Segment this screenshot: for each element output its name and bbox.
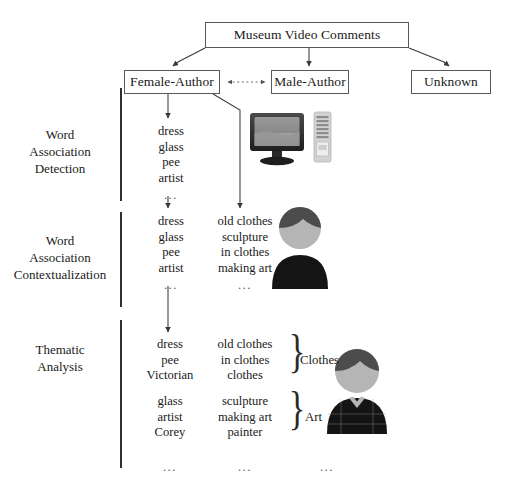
stage-2-line-1: Word — [2, 232, 118, 249]
word-item: dress — [138, 124, 204, 140]
bottom-ellipsis-2: ... — [200, 460, 290, 476]
stage2-word-column-2: old clothes sculpture in clothes making … — [196, 214, 294, 276]
word-item: artist — [134, 410, 206, 426]
stage2-ellipsis-1: ... — [138, 278, 204, 294]
word-item: dress — [138, 214, 204, 230]
stage-label-word-association-detection: Word Association Detection — [2, 126, 118, 177]
bottom-ellipsis-1: ... — [134, 460, 206, 476]
word-item: pee — [138, 155, 204, 171]
edge-root-to-female — [173, 48, 205, 66]
node-museum-video-comments[interactable]: Museum Video Comments — [205, 22, 409, 48]
stage1-word-column: dress glass pee artist — [138, 124, 204, 186]
edge-root-to-unknown — [409, 48, 449, 66]
node-female-author[interactable]: Female-Author — [124, 70, 220, 94]
word-item: making art — [196, 261, 294, 277]
stage1-ellipsis: ... — [138, 188, 204, 204]
word-item: sculpture — [196, 230, 294, 246]
word-item: in clothes — [200, 353, 290, 369]
bottom-ellipsis-3: ... — [292, 460, 362, 476]
edge-female-to-stage2-col2 — [213, 94, 240, 208]
word-item: glass — [134, 394, 206, 410]
word-item: in clothes — [196, 245, 294, 261]
stage-1-line-3: Detection — [2, 160, 118, 177]
stage2-word-column-1: dress glass pee artist — [138, 214, 204, 276]
monitor-icon — [250, 113, 304, 165]
diagram-canvas: Museum Video Comments Female-Author Male… — [0, 0, 516, 494]
word-item: Victorian — [134, 368, 206, 384]
server-tower-icon — [314, 112, 331, 162]
stage-2-line-2: Association — [2, 249, 118, 266]
word-item: pee — [138, 245, 204, 261]
word-item: glass — [138, 230, 204, 246]
word-item: making art — [200, 410, 290, 426]
word-item: dress — [134, 337, 206, 353]
word-item: artist — [138, 261, 204, 277]
stage-1-line-1: Word — [2, 126, 118, 143]
theme-label-clothes: Clothes — [300, 353, 360, 369]
stage-3-line-1: Thematic — [2, 341, 118, 358]
node-male-author[interactable]: Male-Author — [271, 70, 349, 94]
stage-2-line-3: Contextualization — [2, 266, 118, 283]
stage3-clothes-column-1: dress pee Victorian — [134, 337, 206, 384]
stage3-art-column-1: glass artist Corey — [134, 394, 206, 441]
brace-art: } — [289, 386, 306, 432]
word-item: glass — [138, 140, 204, 156]
stage-1-line-2: Association — [2, 143, 118, 160]
node-unknown[interactable]: Unknown — [411, 70, 491, 94]
word-item: old clothes — [200, 337, 290, 353]
word-item: Corey — [134, 425, 206, 441]
stage-label-thematic-analysis: Thematic Analysis — [2, 341, 118, 375]
word-item: sculpture — [200, 394, 290, 410]
stage2-ellipsis-2: ... — [196, 278, 294, 294]
word-item: painter — [200, 425, 290, 441]
word-item: pee — [134, 353, 206, 369]
stage-3-line-2: Analysis — [2, 358, 118, 375]
theme-label-art: Art — [305, 410, 355, 426]
stage-label-word-association-contextualization: Word Association Contextualization — [2, 232, 118, 283]
word-item: artist — [138, 171, 204, 187]
word-item: old clothes — [196, 214, 294, 230]
stage3-art-column-2: sculpture making art painter — [200, 394, 290, 441]
stage3-clothes-column-2: old clothes in clothes clothes — [200, 337, 290, 384]
word-item: clothes — [200, 368, 290, 384]
